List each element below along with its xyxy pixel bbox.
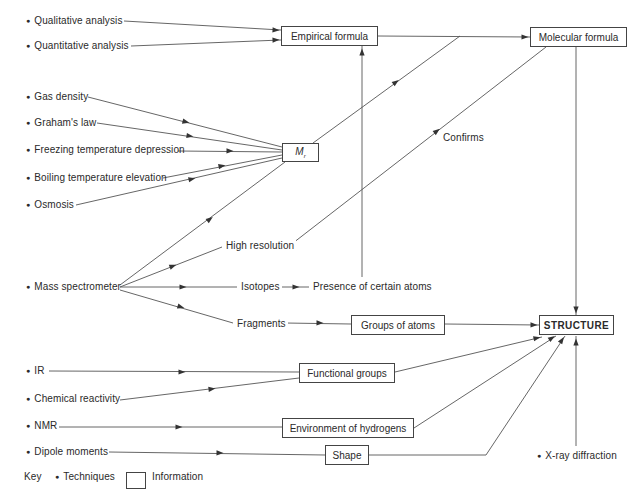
- label-fragments: Fragments: [235, 318, 288, 330]
- technique-xray: X-ray diffraction: [537, 450, 617, 463]
- arrowhead-icon: [169, 265, 176, 270]
- arrowhead-icon: [533, 336, 540, 341]
- edge-line: [313, 36, 460, 143]
- edge-line: [49, 371, 299, 372]
- arrowhead-icon: [521, 34, 528, 39]
- technique-qualitative: Qualitative analysis: [26, 15, 122, 28]
- edge-line: [124, 21, 281, 30]
- info-box-environment: Environment of hydrogens: [282, 418, 414, 438]
- technique-boiling: Boiling temperature elevation: [26, 172, 167, 185]
- edge-line: [131, 40, 281, 46]
- technique-chem-reactivity: Chemical reactivity: [26, 393, 120, 406]
- arrowhead-icon: [272, 27, 279, 32]
- key-title: Key: [24, 471, 42, 483]
- info-box-functional: Functional groups: [299, 363, 395, 383]
- arrowhead-icon: [293, 284, 300, 289]
- info-box-empirical: Empirical formula: [281, 26, 378, 46]
- arrowhead-icon: [177, 304, 184, 309]
- technique-grahams-law: Graham's law: [26, 117, 96, 130]
- arrowhead-icon: [176, 424, 183, 429]
- arrowhead-icon: [216, 450, 223, 455]
- label-high-resolution: High resolution: [224, 240, 296, 252]
- info-box-groups-atoms: Groups of atoms: [351, 315, 445, 335]
- edge-line: [120, 290, 233, 323]
- arrowhead-icon: [316, 320, 323, 325]
- technique-nmr: NMR: [26, 420, 57, 433]
- edge-line: [293, 47, 546, 243]
- technique-mass-spec: Mass spectrometer: [26, 281, 121, 294]
- arrowhead-icon: [530, 322, 537, 327]
- info-box-mr: Mr: [282, 143, 319, 162]
- technique-freezing: Freezing temperature depression: [26, 144, 185, 157]
- edge-line: [395, 337, 542, 372]
- technique-dipole: Dipole moments: [26, 446, 108, 459]
- technique-osmosis: Osmosis: [26, 199, 74, 212]
- info-box-structure: STRUCTURE: [539, 315, 614, 335]
- arrowhead-icon: [359, 49, 364, 56]
- edge-line: [378, 36, 530, 37]
- arrowhead-icon: [226, 148, 233, 153]
- key-techniques-label: Techniques: [55, 471, 115, 484]
- arrowhead-icon: [182, 119, 189, 124]
- label-isotopes: Isotopes: [239, 281, 282, 293]
- arrowhead-icon: [180, 284, 187, 289]
- arrowhead-icon: [208, 387, 215, 392]
- technique-ir: IR: [26, 365, 45, 378]
- arrowhead-icon: [558, 337, 564, 344]
- arrowhead-icon: [206, 217, 213, 223]
- key-information-swatch: [126, 472, 146, 489]
- info-box-shape: Shape: [325, 445, 369, 465]
- label-presence-atoms: Presence of certain atoms: [311, 281, 434, 293]
- technique-gas-density: Gas density: [26, 91, 88, 104]
- label-confirms: Confirms: [441, 132, 486, 144]
- info-box-molecular: Molecular formula: [530, 27, 627, 47]
- arrowhead-icon: [573, 307, 578, 314]
- arrowhead-icon: [178, 369, 185, 374]
- arrowhead-icon: [573, 339, 578, 346]
- key-information-label: Information: [152, 471, 203, 483]
- technique-quantitative: Quantitative analysis: [26, 40, 129, 53]
- edge-line: [445, 324, 539, 325]
- arrowhead-icon: [272, 38, 279, 43]
- arrowhead-icon: [218, 164, 225, 169]
